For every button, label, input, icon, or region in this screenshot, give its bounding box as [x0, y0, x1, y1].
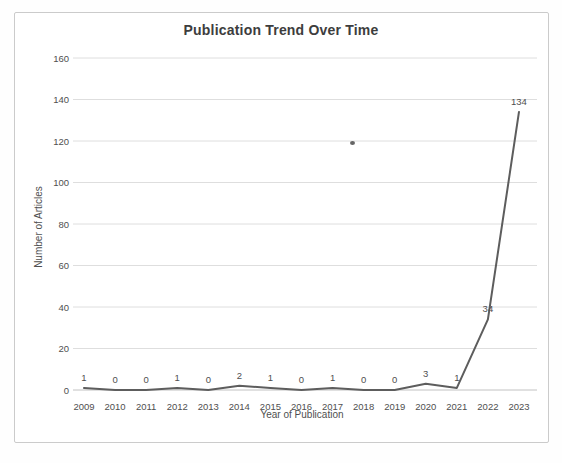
line-chart-plot: 0204060801001201401602009201020112012201…: [0, 0, 562, 463]
data-label: 0: [299, 374, 304, 385]
y-tick-label: 100: [53, 177, 69, 188]
x-tick-label: 2021: [446, 401, 467, 412]
scan-speck: [350, 141, 355, 145]
data-label: 3: [423, 368, 428, 379]
x-tick-label: 2012: [167, 401, 188, 412]
y-axis-title: Number of Articles: [33, 186, 44, 268]
y-tick-label: 20: [58, 343, 69, 354]
data-label: 0: [143, 374, 148, 385]
y-tick-label: 120: [53, 136, 69, 147]
x-tick-label: 2013: [198, 401, 219, 412]
data-label: 1: [454, 372, 459, 383]
x-tick-label: 2009: [73, 401, 94, 412]
x-tick-label: 2019: [384, 401, 405, 412]
data-label: 1: [330, 372, 335, 383]
data-label: 0: [361, 374, 366, 385]
x-tick-label: 2010: [104, 401, 125, 412]
y-tick-label: 80: [58, 219, 69, 230]
data-label: 1: [175, 372, 180, 383]
y-tick-label: 40: [58, 302, 69, 313]
data-label: 2: [237, 370, 242, 381]
scanned-page: 0204060801001201401602009201020112012201…: [0, 0, 562, 463]
x-tick-label: 2022: [477, 401, 498, 412]
y-tick-label: 140: [53, 94, 69, 105]
data-label: 134: [511, 96, 527, 107]
x-tick-label: 2014: [229, 401, 250, 412]
y-tick-label: 60: [58, 260, 69, 271]
x-tick-label: 2023: [508, 401, 529, 412]
x-tick-label: 2018: [353, 401, 374, 412]
data-label: 1: [268, 372, 273, 383]
x-tick-label: 2020: [415, 401, 436, 412]
data-label: 0: [112, 374, 117, 385]
y-tick-label: 0: [64, 385, 69, 396]
x-tick-label: 2011: [136, 401, 156, 412]
data-label: 0: [206, 374, 211, 385]
data-label: 0: [392, 374, 397, 385]
x-axis-title: Year of Publication: [260, 409, 343, 420]
data-label: 34: [483, 303, 494, 314]
y-tick-label: 160: [53, 53, 69, 64]
data-label: 1: [81, 372, 86, 383]
chart-title: Publication Trend Over Time: [14, 22, 548, 38]
